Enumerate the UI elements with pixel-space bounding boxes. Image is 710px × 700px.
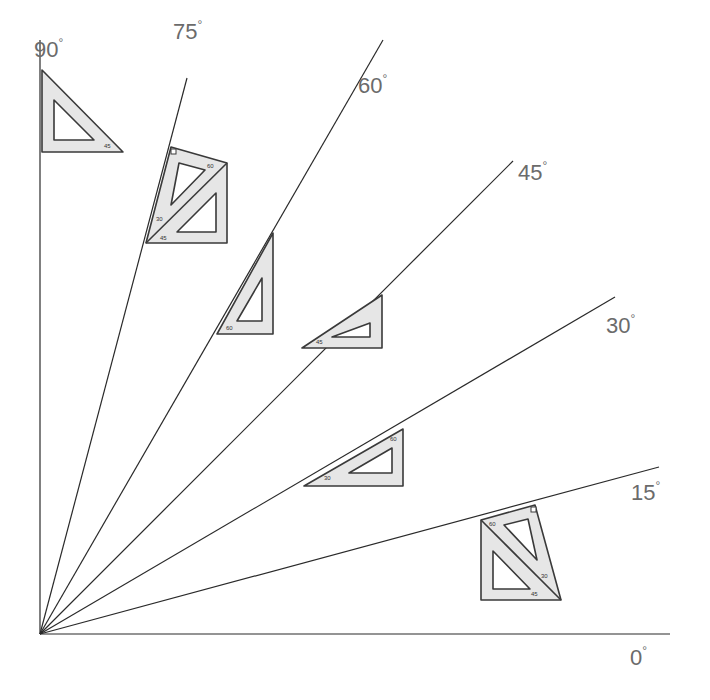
set-square-60: 60 [217,233,273,334]
label-75: 75° [173,21,202,43]
ray-15 [40,467,659,634]
triangle-mark: 45 [531,591,538,597]
diagram-canvas: 45 60 30 45 60 45 30 [0,0,710,700]
label-60: 60° [358,75,387,97]
label-value: 75 [173,19,197,44]
set-square-90: 45 [42,70,123,152]
triangle-mark: 60 [226,325,233,331]
set-square-30: 30 60 [304,429,403,486]
triangle-mark: 45 [104,143,111,149]
label-value: 60 [358,73,382,98]
triangle-mark: 60 [390,436,397,442]
label-value: 15 [631,480,655,505]
triangle-mark: 30 [156,216,163,222]
triangle-mark: 45 [160,235,167,241]
angle-diagram: 45 60 30 45 60 45 30 [0,0,710,700]
degree-sign: ° [655,479,660,493]
label-15: 15° [631,482,660,504]
triangle-45-outer [302,295,382,348]
label-value: 45 [518,160,542,185]
set-square-15: 60 30 45 [481,505,561,600]
degree-sign: ° [642,644,647,658]
degree-sign: ° [382,72,387,86]
label-0: 0° [630,647,647,669]
triangle-mark: 30 [324,475,331,481]
degree-sign: ° [630,312,635,326]
right-angle-mark [531,507,536,512]
triangle-mark: 45 [316,339,323,345]
degree-sign: ° [197,18,202,32]
right-angle-mark [171,149,176,154]
ray-75 [40,78,187,634]
triangle-mark: 60 [207,163,214,169]
set-square-45: 45 [302,295,382,348]
label-90: 90° [34,39,63,61]
label-45: 45° [518,162,547,184]
set-square-75: 60 30 45 [146,147,227,243]
degree-sign: ° [542,159,547,173]
label-value: 30 [606,313,630,338]
label-30: 30° [606,315,635,337]
label-value: 90 [34,37,58,62]
ray-45 [40,161,513,634]
label-value: 0 [630,645,642,670]
triangle-mark: 30 [541,573,548,579]
degree-sign: ° [58,36,63,50]
triangle-mark: 60 [489,521,496,527]
